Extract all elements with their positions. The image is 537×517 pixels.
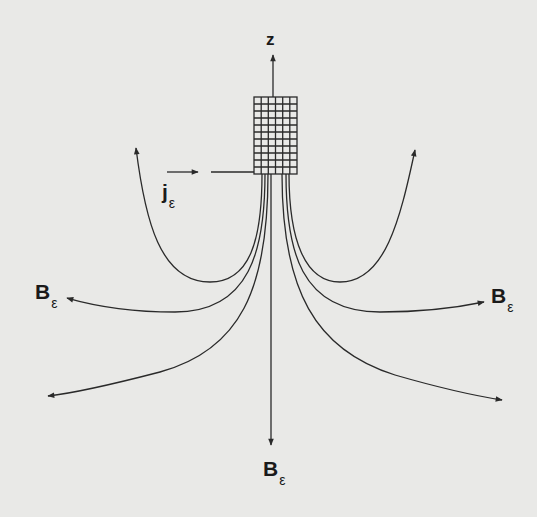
field-symbol-left: B [35, 280, 50, 303]
current-symbol: j [162, 180, 168, 203]
field-subscript-left: ε [51, 295, 57, 311]
current-density-label: jε [162, 180, 174, 204]
z-axis-label: z [266, 30, 275, 50]
current-source-grid [254, 97, 297, 174]
field-subscript-bottom: ε [279, 472, 285, 488]
field-line-right-outer [282, 174, 502, 400]
field-label-bottom: Bε [263, 457, 284, 481]
field-subscript-right: ε [507, 299, 513, 315]
field-label-right: Bε [491, 284, 512, 308]
field-symbol-bottom: B [263, 457, 278, 480]
field-symbol-right: B [491, 284, 506, 307]
field-label-left: Bε [35, 280, 56, 304]
field-line-left-inner [136, 148, 262, 282]
field-diagram [0, 0, 537, 517]
current-subscript: ε [169, 195, 175, 211]
field-line-right-inner [289, 150, 415, 282]
field-line-right-middle [286, 174, 484, 312]
field-line-left-outer [48, 174, 268, 396]
